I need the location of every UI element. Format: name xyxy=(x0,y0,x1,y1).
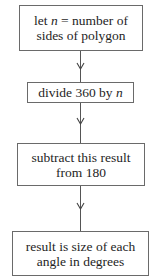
variable-n: n xyxy=(116,85,123,100)
step-2-line-1: divide 360 by n xyxy=(38,85,122,100)
step-1-line-2: sides of polygon xyxy=(36,28,125,43)
step-4-line-2: angle in degrees xyxy=(37,254,125,269)
variable-n: n xyxy=(51,13,58,28)
step-box-divide: divide 360 by n xyxy=(27,82,134,103)
step-box-result: result is size of each angle in degrees xyxy=(12,231,149,276)
arrow-down-icon xyxy=(76,62,85,70)
step-3-line-2: from 180 xyxy=(56,165,106,180)
step-box-define-n: let n = number of sides of polygon xyxy=(19,5,143,51)
step-box-subtract: subtract this result from 180 xyxy=(17,143,145,186)
step-4-line-1: result is size of each xyxy=(26,239,135,254)
step-1-line-1: let n = number of xyxy=(34,13,128,28)
arrow-down-icon xyxy=(76,202,85,210)
step-3-line-1: subtract this result xyxy=(32,150,131,165)
arrow-down-icon xyxy=(76,117,85,125)
